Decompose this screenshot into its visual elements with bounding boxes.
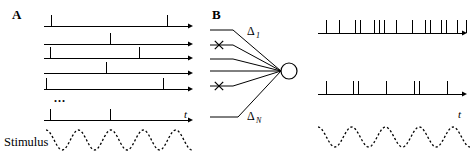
panel-a-time-axis-label: t	[184, 108, 188, 120]
delta-n-subscript: N	[255, 116, 262, 125]
panel-a: A ... t Stimulus	[4, 7, 192, 150]
delta-n-label-group: Δ N	[247, 109, 262, 125]
delta-n-label: Δ	[247, 109, 255, 123]
panel-a-ellipsis: ...	[54, 91, 66, 105]
axis-arrowhead	[188, 86, 193, 91]
delta-1-subscript: 1	[256, 31, 260, 40]
spike-train-row-5	[44, 78, 188, 89]
panel-b: B Δ 1 Δ N t	[210, 7, 470, 147]
output-spike-train	[318, 81, 462, 94]
panel-b-letter: B	[212, 7, 221, 22]
axis-arrowhead	[188, 41, 193, 46]
input-spike-train	[318, 20, 466, 33]
spike-train-row-4	[44, 62, 188, 73]
axis-arrowhead	[188, 55, 193, 60]
axis-arrowhead	[188, 117, 193, 122]
delta-1-label-group: Δ 1	[247, 24, 260, 40]
figure-root: A ... t Stimulus B Δ 1 Δ N t	[0, 0, 475, 157]
axis-arrowhead	[188, 23, 193, 28]
panel-a-letter: A	[12, 7, 22, 22]
axis-arrowhead	[462, 91, 467, 96]
axis-arrowhead	[188, 70, 193, 75]
panel-b-spike-trains	[318, 20, 466, 94]
panel-b-time-axis-label: t	[458, 108, 462, 120]
input-6	[210, 71, 281, 117]
axis-arrowheads	[188, 23, 467, 122]
panel-a-stimulus-waveform	[46, 130, 192, 150]
spike-train-row-6	[44, 109, 188, 120]
spike-train-row-3	[44, 47, 188, 58]
neural-spike-train-figure: A ... t Stimulus B Δ 1 Δ N t	[0, 0, 475, 157]
input-2	[210, 45, 281, 71]
spike-train-row-2	[44, 33, 188, 44]
spike-train-row-1	[44, 15, 188, 26]
panel-b-blocked-input-markers	[215, 41, 223, 90]
soma-circle	[281, 63, 297, 79]
delta-1-label: Δ	[247, 24, 255, 38]
panel-a-stimulus-label: Stimulus	[4, 135, 49, 149]
panel-b-stimulus-waveform	[318, 127, 470, 147]
